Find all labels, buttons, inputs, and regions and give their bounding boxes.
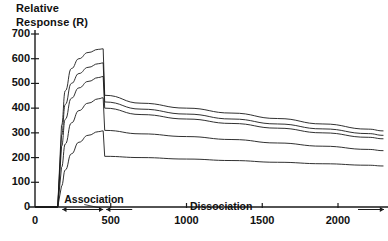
x-tick-label: 0 bbox=[15, 214, 55, 226]
y-tick-label: 600 bbox=[0, 52, 30, 64]
dissociation-label: Dissociation bbox=[190, 200, 252, 212]
sensorgram-curve bbox=[35, 49, 383, 207]
y-tick-label: 200 bbox=[0, 151, 30, 163]
sensorgram-curve bbox=[35, 63, 383, 207]
sensorgram-figure: Relative Response (R) 700600500400300200… bbox=[0, 0, 388, 241]
x-tick-label: 1500 bbox=[242, 214, 282, 226]
y-tick-label: 700 bbox=[0, 27, 30, 39]
y-tick-label: 500 bbox=[0, 76, 30, 88]
y-tick-label: 0 bbox=[0, 200, 30, 212]
x-tick-label: 1000 bbox=[167, 214, 207, 226]
sensorgram-curve bbox=[35, 98, 383, 207]
x-tick-label: 500 bbox=[91, 214, 131, 226]
y-tick-label: 400 bbox=[0, 101, 30, 113]
y-tick-label: 300 bbox=[0, 126, 30, 138]
curves-group bbox=[35, 49, 383, 207]
sensorgram-curve bbox=[35, 77, 383, 207]
x-tick-label: 2000 bbox=[318, 214, 358, 226]
association-label: Association bbox=[64, 193, 124, 205]
y-tick-label: 100 bbox=[0, 175, 30, 187]
